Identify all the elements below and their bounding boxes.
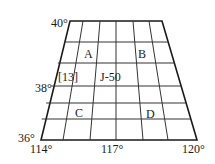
lon-label-120: 120° xyxy=(182,142,205,156)
lon-label-117: 117° xyxy=(101,142,124,156)
lat-label-38: 38° xyxy=(35,81,52,95)
lat-label-40: 40° xyxy=(51,16,68,30)
cell-label-d: D xyxy=(146,107,155,121)
cell-label-a: A xyxy=(84,47,93,61)
sheet-index-label: [13] xyxy=(58,70,78,84)
cell-label-b: B xyxy=(138,47,146,61)
lon-label-114: 114° xyxy=(30,142,53,156)
cell-label-c: C xyxy=(75,106,83,120)
sheet-code-label: J-50 xyxy=(100,70,121,84)
map-grid: 40° 38° 36° 114° 117° 120° A B [13] J-50… xyxy=(0,0,215,164)
